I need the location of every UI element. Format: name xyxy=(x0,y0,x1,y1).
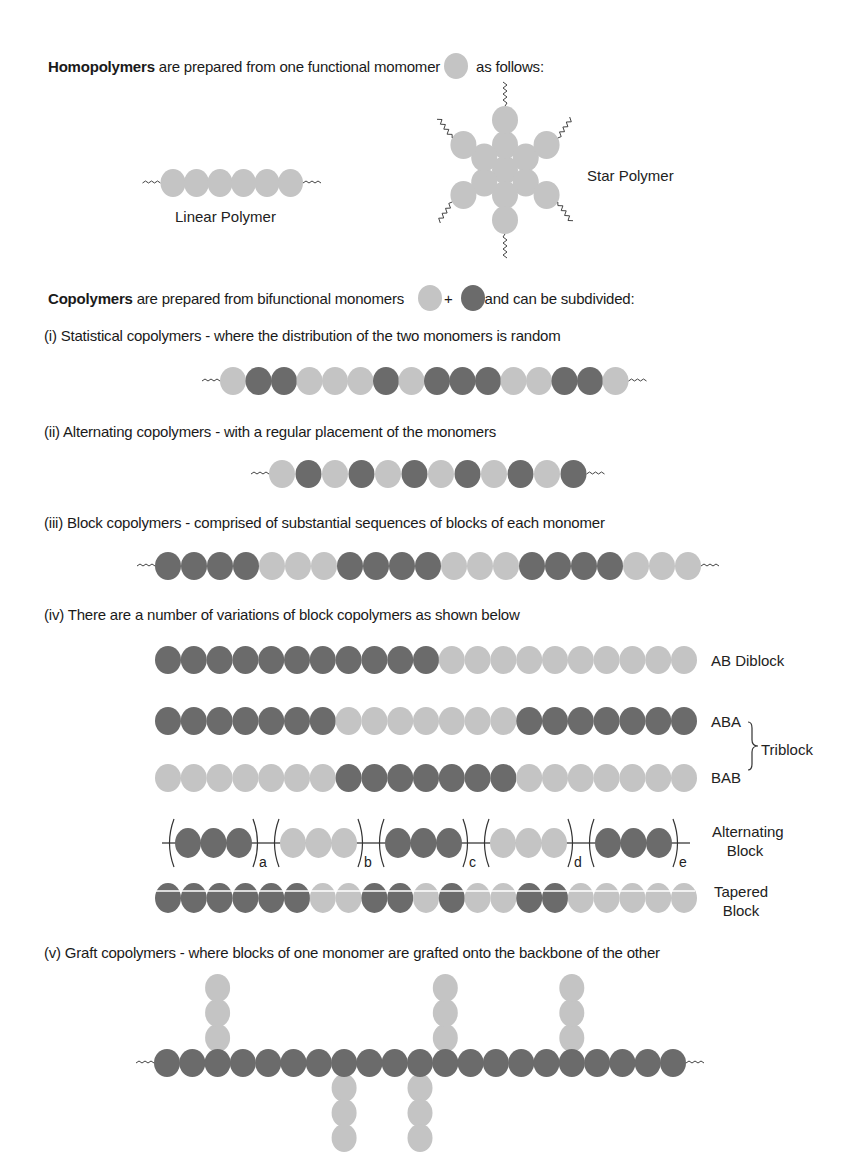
chain-end-icon xyxy=(251,472,269,474)
dark-monomer xyxy=(660,1049,686,1077)
chain-end-icon xyxy=(437,119,452,138)
polymer-diagram: abcde xyxy=(0,0,864,1166)
light-monomer xyxy=(559,974,584,1002)
light-monomer xyxy=(433,974,458,1002)
chain-end-icon xyxy=(503,82,507,106)
light-monomer xyxy=(332,1124,357,1152)
dark-monomer xyxy=(568,707,594,735)
dark-monomer xyxy=(439,883,465,913)
light-monomer xyxy=(490,828,516,858)
dark-monomer xyxy=(181,552,207,580)
dark-monomer xyxy=(594,707,620,735)
subscript-a: a xyxy=(259,854,267,870)
light-monomer xyxy=(205,974,230,1002)
dark-monomer xyxy=(455,460,481,488)
alternating-copolymer xyxy=(251,460,605,488)
light-monomer xyxy=(526,367,552,395)
light-monomer xyxy=(375,460,401,488)
light-monomer xyxy=(310,883,336,913)
light-monomer xyxy=(439,707,465,735)
light-monomer xyxy=(490,883,516,913)
dark-monomer xyxy=(255,1049,281,1077)
light-monomer xyxy=(492,106,518,134)
dark-monomer xyxy=(155,707,181,735)
light-monomer xyxy=(413,883,439,913)
dark-monomer xyxy=(646,828,672,858)
dark-monomer xyxy=(246,367,272,395)
dark-monomer xyxy=(207,646,233,674)
chain-end-icon xyxy=(303,181,321,183)
dark-monomer xyxy=(201,828,227,858)
linear-polymer xyxy=(143,169,322,197)
light-monomer xyxy=(619,883,645,913)
light-monomer xyxy=(220,367,246,395)
light-monomer xyxy=(441,552,467,580)
dark-monomer xyxy=(559,1049,585,1077)
light-monomer xyxy=(336,883,362,913)
light-monomer xyxy=(490,707,516,735)
light-monomer xyxy=(387,707,413,735)
dark-monomer xyxy=(337,552,363,580)
dark-monomer xyxy=(233,552,259,580)
light-monomer xyxy=(559,999,584,1027)
light-monomer xyxy=(603,367,629,395)
light-monomer xyxy=(207,764,233,792)
alternating-block-copolymer: abcde xyxy=(162,819,690,870)
light-monomer xyxy=(450,131,476,159)
light-monomer xyxy=(408,1124,433,1152)
light-monomer xyxy=(331,828,357,858)
chain-end-icon xyxy=(558,117,571,138)
dark-monomer xyxy=(207,552,233,580)
chain-end-icon xyxy=(136,1061,154,1063)
light-monomer xyxy=(516,646,542,674)
dark-monomer xyxy=(226,828,252,858)
dark-monomer xyxy=(179,1049,205,1077)
light-monomer xyxy=(465,646,491,674)
subscript-c: c xyxy=(469,854,476,870)
light-monomer xyxy=(465,883,491,913)
dark-monomer xyxy=(609,1049,635,1077)
light-monomer xyxy=(161,169,186,197)
light-monomer xyxy=(481,460,507,488)
light-monomer xyxy=(311,552,337,580)
light-monomer xyxy=(645,883,671,913)
light-monomer xyxy=(619,764,645,792)
light-monomer xyxy=(181,764,207,792)
light-monomer xyxy=(542,646,568,674)
dark-monomer xyxy=(597,552,623,580)
dark-monomer xyxy=(284,883,310,913)
light-monomer xyxy=(205,999,230,1027)
light-monomer xyxy=(568,646,594,674)
light-monomer xyxy=(467,552,493,580)
light-monomer xyxy=(155,764,181,792)
light-monomer xyxy=(408,1099,433,1127)
light-monomer xyxy=(258,764,284,792)
dark-monomer xyxy=(411,828,437,858)
light-monomer xyxy=(433,1024,458,1052)
light-monomer xyxy=(645,646,671,674)
dark-monomer xyxy=(387,764,413,792)
dark-monomer xyxy=(155,883,181,913)
dark-monomer xyxy=(450,367,476,395)
dark-monomer xyxy=(571,552,597,580)
dark-monomer xyxy=(207,707,233,735)
dark-monomer xyxy=(545,552,571,580)
dark-monomer xyxy=(415,552,441,580)
chain-end-icon xyxy=(558,202,573,221)
dark-monomer xyxy=(508,460,534,488)
dark-monomer xyxy=(363,552,389,580)
dark-monomer xyxy=(671,707,697,735)
light-monomer xyxy=(492,206,518,234)
dark-monomer xyxy=(361,764,387,792)
dark-monomer xyxy=(508,1049,534,1077)
block-variations xyxy=(155,646,697,913)
dark-monomer xyxy=(361,646,387,674)
dark-monomer xyxy=(155,646,181,674)
dark-monomer xyxy=(413,764,439,792)
light-monomer xyxy=(297,367,323,395)
light-monomer xyxy=(623,552,649,580)
light-monomer xyxy=(671,764,697,792)
dark-monomer xyxy=(542,707,568,735)
block-copolymer xyxy=(137,552,719,580)
dark-monomer xyxy=(155,552,181,580)
